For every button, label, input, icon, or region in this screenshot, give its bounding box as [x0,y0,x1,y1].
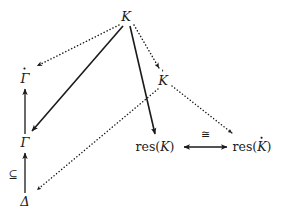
node-res-k-dot-prefix: res( [233,139,258,154]
node-res-k-dot-suffix: ) [267,139,272,154]
node-gamma-label: Γ [20,135,29,150]
edge-K-to-res-k [130,26,155,134]
node-res-k-dot-arg: K [257,141,266,154]
node-gamma-dot: Γ [20,72,29,85]
node-res-k: res(K) [136,141,175,154]
subset-symbol: ⊆ [8,168,17,181]
node-delta: Δ [20,195,29,208]
iso-symbol: ≅ [201,128,210,141]
edge-k-dot-to-res-k-dot [172,86,232,133]
edge-label-iso: ≅ [201,129,210,140]
node-delta-label: Δ [20,194,29,209]
node-K: K [121,10,131,23]
node-res-k-suffix: ) [170,139,175,154]
diagram-edges [0,0,283,219]
node-res-k-dot: res(K) [233,141,272,154]
edge-label-subset: ⊆ [8,169,17,180]
node-gamma: Γ [20,136,29,149]
commutative-diagram: K Γ K Γ res(K) res(K) Δ ⊆ ≅ [0,0,283,219]
node-gamma-dot-label: Γ [20,72,29,85]
node-res-k-arg: K [160,139,169,154]
node-k-dot: K [158,74,168,87]
node-res-k-prefix: res( [136,139,161,154]
node-k-dot-label: K [158,74,168,87]
edge-K-to-gamma [32,26,123,131]
node-K-label: K [121,9,131,24]
